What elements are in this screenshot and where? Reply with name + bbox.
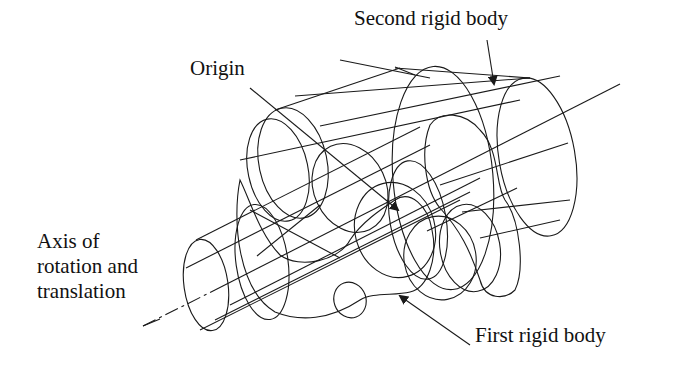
diagram-canvas xyxy=(0,0,696,373)
label-second-rigid-body: Second rigid body xyxy=(354,6,508,30)
label-axis-line-2: rotation and xyxy=(37,254,138,279)
first-rigid-body xyxy=(178,127,480,334)
label-axis-line-1: Axis of xyxy=(37,229,138,254)
label-first-rigid-body: First rigid body xyxy=(475,323,606,347)
wireframe-drawing xyxy=(0,0,696,373)
axis-end-left xyxy=(143,319,160,326)
axis-line xyxy=(143,84,620,326)
label-origin: Origin xyxy=(190,56,245,80)
label-axis-of-rotation: Axis of rotation and translation xyxy=(37,229,138,304)
first-body-leader xyxy=(400,296,470,345)
second-body-leader xyxy=(487,40,494,84)
label-axis-line-3: translation xyxy=(37,279,138,304)
